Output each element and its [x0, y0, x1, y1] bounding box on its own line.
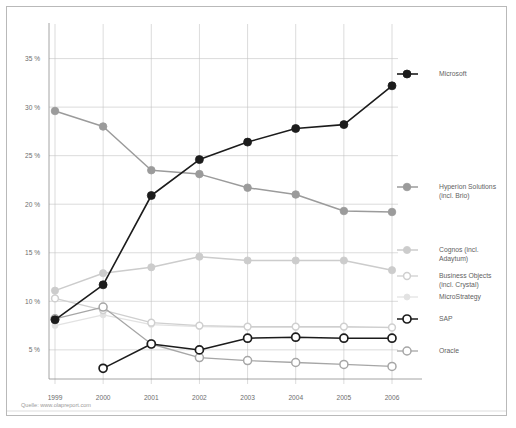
- legend-item[interactable]: MicroStrategy: [397, 293, 482, 301]
- legend-item[interactable]: Cognos (incl.Adaytum): [397, 246, 479, 263]
- data-point: [292, 191, 300, 199]
- data-point: [196, 322, 203, 329]
- data-point: [388, 362, 396, 370]
- source-text: Quelle: www.olapreport.com: [21, 402, 91, 408]
- data-point: [292, 333, 300, 341]
- x-axis-tick-label: 2000: [96, 394, 111, 401]
- legend-item[interactable]: Microsoft: [397, 70, 467, 78]
- data-point: [51, 107, 59, 115]
- data-point: [51, 287, 58, 294]
- data-point: [195, 156, 203, 164]
- axes: [49, 23, 422, 379]
- market-share-line-chart: 5 %10 %15 %20 %25 %30 %35 %1999200020012…: [7, 7, 506, 415]
- data-point: [244, 138, 252, 146]
- legend-label: Business Objects: [439, 272, 492, 280]
- y-axis-tick-label: 30 %: [25, 104, 40, 111]
- y-axis-tick-label: 20 %: [25, 201, 40, 208]
- legend-label: Microsoft: [439, 70, 467, 77]
- legend-label: Hyperion Solutions: [439, 183, 497, 191]
- x-axis-tick-label: 2002: [192, 394, 207, 401]
- data-point: [148, 166, 156, 174]
- legend-label-secondary: Adaytum): [439, 255, 468, 263]
- data-point: [244, 184, 252, 192]
- legend-label-secondary: (incl. Brio): [439, 192, 470, 200]
- legend-label: MicroStrategy: [439, 293, 482, 301]
- x-axis-tick-label: 2003: [240, 394, 255, 401]
- x-axis-tick-label: 2006: [385, 394, 400, 401]
- y-axis-tick-label: 10 %: [25, 298, 40, 305]
- data-point: [244, 323, 251, 330]
- data-point: [244, 334, 252, 342]
- y-axis-tick-label: 5 %: [29, 346, 40, 353]
- data-point: [388, 267, 395, 274]
- data-point: [292, 323, 299, 330]
- data-point: [341, 323, 348, 330]
- data-point: [195, 354, 203, 362]
- x-axis-tick-label: 1999: [48, 394, 63, 401]
- data-point: [99, 303, 107, 311]
- chart-frame: 5 %10 %15 %20 %25 %30 %35 %1999200020012…: [6, 6, 507, 416]
- data-point: [148, 264, 155, 271]
- data-point: [388, 82, 396, 90]
- legend-label: SAP: [439, 315, 453, 322]
- data-point: [99, 123, 107, 131]
- legend-label: Cognos (incl.: [439, 246, 479, 254]
- y-axis-tick-label: 15 %: [25, 249, 40, 256]
- legend-item[interactable]: Business Objects(incl. Crystal): [397, 272, 492, 289]
- data-point: [340, 360, 348, 368]
- legend-item[interactable]: Oracle: [397, 347, 459, 355]
- legend-item[interactable]: Hyperion Solutions(incl. Brio): [397, 183, 497, 200]
- x-axis-tick-label: 2005: [337, 394, 352, 401]
- data-point: [52, 295, 59, 302]
- data-point: [51, 316, 59, 324]
- data-point: [389, 324, 396, 331]
- legend-item[interactable]: SAP: [397, 315, 453, 323]
- data-point: [195, 346, 203, 354]
- source-note: Quelle: www.olapreport.com: [7, 402, 506, 411]
- legend-label-secondary: (incl. Crystal): [439, 281, 479, 289]
- data-point: [244, 357, 252, 365]
- data-point: [340, 121, 348, 129]
- data-point: [196, 170, 204, 178]
- data-point: [147, 192, 155, 200]
- data-point: [292, 125, 300, 133]
- data-point: [292, 359, 300, 367]
- data-point: [99, 281, 107, 289]
- series-microsoft: [51, 82, 396, 324]
- data-point: [340, 257, 347, 264]
- legend-label: Oracle: [439, 347, 459, 354]
- legend: MicrosoftHyperion Solutions(incl. Brio)C…: [397, 70, 497, 355]
- data-point: [99, 364, 107, 372]
- gridlines: 5 %10 %15 %20 %25 %30 %35 %: [25, 55, 398, 353]
- data-point: [340, 207, 348, 215]
- data-point: [196, 253, 203, 260]
- x-axis-tick-label: 2004: [288, 394, 303, 401]
- data-point: [100, 270, 107, 277]
- data-point: [147, 340, 155, 348]
- data-point: [388, 334, 396, 342]
- y-axis-tick-label: 35 %: [25, 55, 40, 62]
- data-point: [340, 334, 348, 342]
- data-point: [244, 257, 251, 264]
- data-point: [148, 319, 155, 326]
- y-axis-tick-label: 25 %: [25, 152, 40, 159]
- x-axis-tick-label: 2001: [144, 394, 159, 401]
- data-point: [388, 208, 396, 216]
- data-point: [292, 257, 299, 264]
